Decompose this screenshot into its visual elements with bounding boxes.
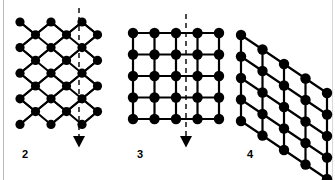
arrowhead-icon (73, 136, 85, 147)
figure-plate: 2 3 4 (0, 0, 335, 180)
lattice-node (128, 114, 138, 124)
lattice-node (93, 107, 102, 116)
lattice-node (236, 30, 246, 40)
lattice-node (322, 152, 332, 162)
lattice-node (15, 120, 24, 129)
lattice-node (46, 120, 55, 129)
lattice-node (300, 73, 310, 83)
lattice-node (149, 49, 159, 59)
lattice-node (149, 28, 159, 38)
lattice-node (31, 81, 40, 90)
lattice-node (300, 116, 310, 126)
lattice-node (31, 30, 40, 39)
lattice-node (15, 43, 24, 52)
lattice-node (214, 114, 224, 124)
lattice-node (322, 174, 332, 180)
lattice-node (15, 94, 24, 103)
lattice-node (236, 94, 246, 104)
lattice-node (93, 56, 102, 65)
lattice-node (192, 71, 202, 81)
panel-square-lattice (128, 14, 224, 147)
lattice-node (46, 43, 55, 52)
lattice-node (279, 59, 289, 69)
lattice-node (171, 114, 181, 124)
lattice-node (93, 81, 102, 90)
lattice-node (257, 109, 267, 119)
triangular-lattice-nodes (15, 17, 102, 129)
lattice-node (192, 28, 202, 38)
lattice-node (279, 145, 289, 155)
lattice-node (257, 44, 267, 54)
lattice-node (128, 92, 138, 102)
lattice-node (300, 95, 310, 105)
lattice-node (300, 159, 310, 169)
lattice-diagram-canvas (0, 0, 335, 180)
lattice-node (149, 114, 159, 124)
lattice-node (149, 71, 159, 81)
lattice-node (300, 138, 310, 148)
lattice-node (62, 81, 71, 90)
lattice-node (171, 92, 181, 102)
lattice-node (214, 49, 224, 59)
lattice-node (93, 30, 102, 39)
lattice-node (257, 87, 267, 97)
lattice-node (62, 30, 71, 39)
lattice-node (128, 28, 138, 38)
figure-label-2: 2 (22, 149, 28, 160)
lattice-node (149, 92, 159, 102)
lattice-node (31, 107, 40, 116)
lattice-node (214, 92, 224, 102)
lattice-node (46, 69, 55, 78)
lattice-node (46, 94, 55, 103)
lattice-node (236, 73, 246, 83)
lattice-node (62, 56, 71, 65)
lattice-node (279, 102, 289, 112)
lattice-node (192, 114, 202, 124)
lattice-node (31, 56, 40, 65)
arrowhead-icon (180, 136, 192, 147)
lattice-node (279, 123, 289, 133)
lattice-node (279, 80, 289, 90)
lattice-node (128, 49, 138, 59)
lattice-node (214, 28, 224, 38)
lattice-node (192, 92, 202, 102)
lattice-node (214, 71, 224, 81)
lattice-node (171, 71, 181, 81)
lattice-node (46, 17, 55, 26)
lattice-node (128, 71, 138, 81)
lattice-node (257, 130, 267, 140)
lattice-node (322, 88, 332, 98)
panel-triangular-lattice (15, 8, 102, 147)
lattice-node (171, 28, 181, 38)
lattice-node (192, 49, 202, 59)
lattice-node (236, 116, 246, 126)
lattice-node (15, 17, 24, 26)
lattice-node (236, 51, 246, 61)
lattice-node (322, 131, 332, 141)
lattice-node (171, 49, 181, 59)
lattice-node (257, 66, 267, 76)
lattice-node (322, 109, 332, 119)
lattice-node (62, 107, 71, 116)
figure-label-4: 4 (247, 149, 253, 160)
lattice-node (15, 69, 24, 78)
figure-label-3: 3 (137, 149, 143, 160)
